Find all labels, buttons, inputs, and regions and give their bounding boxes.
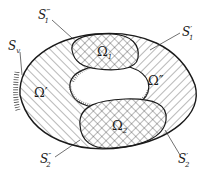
label-s2-prime: S′2	[178, 151, 190, 169]
label-s1-prime: S′1	[182, 24, 194, 42]
label-s1-triple: S‴1	[38, 7, 51, 25]
label-omega-dprime: Ω″	[148, 73, 164, 88]
label-omega-prime: Ω′	[34, 85, 48, 100]
label-sv: Sv	[8, 39, 20, 55]
label-s2-dprime: S″2	[40, 151, 51, 169]
omega2-region	[80, 99, 166, 148]
domain-diagram: S‴1 S′1 Sv Ω′ Ω″ Ω1 Ω2 S″2 S′2	[0, 0, 211, 182]
sv-boundary-ticks	[16, 72, 18, 110]
